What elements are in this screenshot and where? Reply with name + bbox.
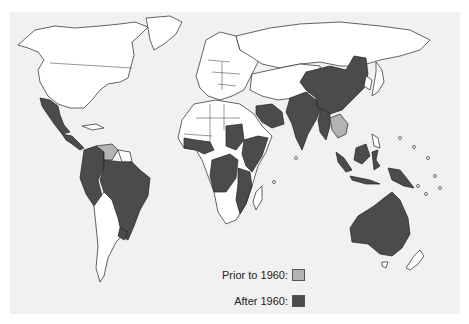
thailand-indochina — [330, 114, 348, 138]
japan — [372, 62, 384, 96]
legend-after-swatch — [292, 295, 305, 307]
east-africa — [236, 168, 252, 214]
greenland — [146, 16, 182, 50]
sulawesi — [372, 150, 380, 170]
tasmania — [382, 262, 388, 268]
philippines — [372, 134, 380, 148]
legend: Prior to 1960: After 1960: — [222, 268, 305, 320]
legend-prior-swatch — [292, 269, 305, 281]
legend-after-label: After 1960: — [234, 295, 288, 307]
guianas — [118, 150, 132, 162]
legend-prior-row: Prior to 1960: — [222, 268, 305, 282]
central-america — [62, 134, 84, 150]
russia — [236, 22, 430, 68]
sumatra — [336, 152, 352, 172]
borneo — [354, 144, 370, 164]
caribbean — [82, 124, 104, 130]
java — [350, 176, 380, 184]
madagascar — [253, 186, 262, 210]
legend-after-row: After 1960: — [222, 294, 305, 308]
new-zealand — [406, 250, 424, 270]
papua-new-guinea — [388, 168, 414, 188]
legend-prior-label: Prior to 1960: — [222, 269, 288, 281]
australia — [350, 192, 410, 256]
